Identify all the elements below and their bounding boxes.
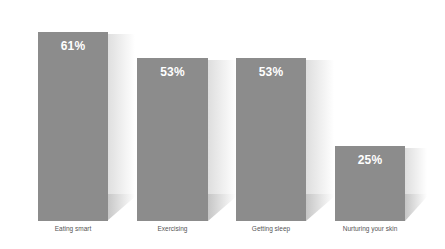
bar-shadow [208,60,236,194]
bar-nurturing-your-skin: 25% [335,146,405,221]
category-label: Eating smart [38,225,108,232]
bar-shadow [306,60,334,194]
bar-floor-shadow [107,194,135,221]
bar-floor-shadow [306,194,334,221]
bar-eating-smart: 61% [38,32,108,221]
bar-shadow [107,34,135,194]
bar-value-label: 53% [236,65,306,79]
bar-shadow [405,148,427,194]
bar-floor-shadow [405,194,427,221]
category-label: Nurturing your skin [330,225,410,232]
category-label: Exercising [137,225,208,232]
bar-value-label: 25% [335,153,405,167]
bar-value-label: 53% [137,65,208,79]
bar-value-label: 61% [38,39,108,53]
bar-exercising: 53% [137,58,208,221]
category-label: Getting sleep [236,225,306,232]
bar-getting-sleep: 53% [236,58,306,221]
bar-chart: 61% Eating smart 53% Exercising 53% Gett… [0,0,445,249]
bar-floor-shadow [208,194,236,221]
